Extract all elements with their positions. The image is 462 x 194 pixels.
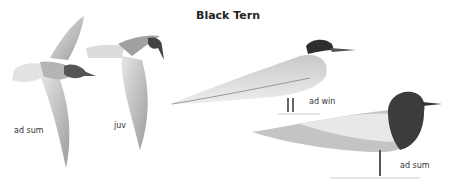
label-flying-adult-summer: ad sum (14, 126, 44, 135)
flying-juvenile-bird (86, 35, 164, 150)
flying-adult-summer-bird (12, 16, 96, 168)
label-flying-juvenile: juv (114, 121, 126, 130)
label-standing-adult-winter: ad win (309, 97, 335, 106)
label-standing-adult-summer: ad sum (400, 161, 430, 170)
illustration-canvas (0, 0, 462, 194)
